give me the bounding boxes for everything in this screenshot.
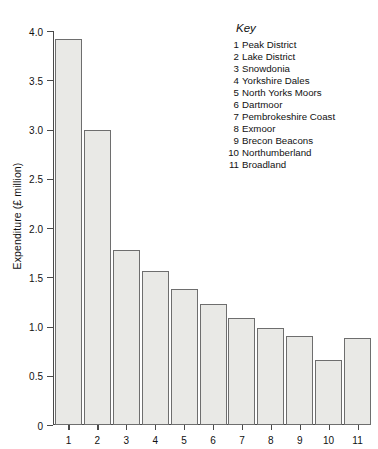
key-item-label: Broadland: [242, 159, 286, 170]
y-axis-tick-label: 3.5: [29, 75, 43, 86]
key-item-number: 9: [222, 135, 239, 147]
bar-chart: Expenditure (£ million) 00.51.01.52.02.5…: [0, 0, 378, 449]
x-axis-tick: [271, 425, 272, 430]
x-axis-tick: [126, 425, 127, 430]
bar: [228, 318, 255, 425]
key-item-label: Dartmoor: [242, 99, 282, 110]
key-item: 5North Yorks Moors: [222, 87, 372, 99]
key-item: 8Exmoor: [222, 123, 372, 135]
key-item-label: Brecon Beacons: [242, 135, 313, 146]
y-axis-title: Expenditure (£ million): [11, 126, 23, 306]
key-item-number: 6: [222, 99, 239, 111]
y-axis-tick: 0.5: [47, 376, 53, 377]
bar: [315, 360, 342, 425]
y-axis-tick: 1.0: [47, 327, 53, 328]
x-axis-tick: [300, 425, 301, 430]
key-item: 6Dartmoor: [222, 99, 372, 111]
x-axis-label: 3: [123, 435, 129, 446]
x-axis-label: 2: [95, 435, 101, 446]
bar: [344, 338, 371, 425]
key-item: 3Snowdonia: [222, 63, 372, 75]
bar: [55, 39, 82, 425]
y-axis-tick-label: 4.0: [29, 26, 43, 37]
y-axis-tick-label: 0: [37, 420, 43, 431]
key-item-number: 10: [222, 147, 239, 159]
key-item-number: 11: [222, 159, 239, 171]
bar: [171, 289, 198, 425]
key-item-label: Yorkshire Dales: [242, 75, 310, 86]
x-axis-label: 7: [239, 435, 245, 446]
x-axis-tick: [97, 425, 98, 430]
bar: [84, 130, 111, 426]
x-axis-label: 6: [210, 435, 216, 446]
key-item-number: 3: [222, 63, 239, 75]
x-axis-label: 9: [297, 435, 303, 446]
x-axis-label: 5: [181, 435, 187, 446]
x-axis-label: 4: [152, 435, 158, 446]
y-axis-tick-label: 2.0: [29, 223, 43, 234]
x-axis-tick: [213, 425, 214, 430]
key-item: 11Broadland: [222, 159, 372, 171]
y-axis-tick: 2.0: [47, 228, 53, 229]
key-title: Key: [236, 22, 372, 34]
key-item: 7Pembrokeshire Coast: [222, 111, 372, 123]
y-axis-tick: 0: [47, 425, 53, 426]
key-item-number: 2: [222, 51, 239, 63]
y-axis-tick-label: 0.5: [29, 371, 43, 382]
key-item: 9Brecon Beacons: [222, 135, 372, 147]
key-item-number: 4: [222, 75, 239, 87]
key-legend: Key 1Peak District2Lake District3Snowdon…: [222, 22, 372, 172]
bar: [257, 328, 284, 425]
key-item-number: 1: [222, 39, 239, 51]
y-axis-tick-label: 1.0: [29, 322, 43, 333]
x-axis-tick: [329, 425, 330, 430]
key-item-label: Peak District: [242, 39, 296, 50]
x-axis-tick: [184, 425, 185, 430]
key-item: 4Yorkshire Dales: [222, 75, 372, 87]
key-item-number: 5: [222, 87, 239, 99]
y-axis-tick: 2.5: [47, 179, 53, 180]
x-axis-label: 1: [66, 435, 72, 446]
y-axis-tick-label: 3.0: [29, 125, 43, 136]
key-item-label: Snowdonia: [242, 63, 290, 74]
key-item-label: Lake District: [242, 51, 295, 62]
x-axis-label: 11: [352, 435, 362, 446]
bar: [113, 250, 140, 425]
key-item: 10Northumberland: [222, 147, 372, 159]
key-item-number: 7: [222, 111, 239, 123]
x-axis-label: 10: [323, 435, 334, 446]
key-item-label: Northumberland: [242, 147, 311, 158]
key-item: 1Peak District: [222, 39, 372, 51]
x-axis-tick: [68, 425, 69, 430]
bar: [200, 304, 227, 425]
y-axis-tick: 4.0: [47, 31, 53, 32]
x-axis-tick: [242, 425, 243, 430]
y-axis-tick: 3.5: [47, 80, 53, 81]
bar: [286, 336, 313, 425]
bar: [142, 271, 169, 425]
key-item-number: 8: [222, 123, 239, 135]
x-axis-label: 8: [268, 435, 274, 446]
x-axis-tick: [358, 425, 359, 430]
key-item-label: Exmoor: [242, 123, 275, 134]
key-item: 2Lake District: [222, 51, 372, 63]
key-list: 1Peak District2Lake District3Snowdonia4Y…: [222, 39, 372, 172]
y-axis-tick-label: 2.5: [29, 174, 43, 185]
key-item-label: North Yorks Moors: [242, 87, 322, 98]
x-axis-tick: [155, 425, 156, 430]
key-item-label: Pembrokeshire Coast: [242, 111, 335, 122]
y-axis-tick-label: 1.5: [29, 272, 43, 283]
y-axis-tick: 1.5: [47, 277, 53, 278]
y-axis-tick: 3.0: [47, 130, 53, 131]
